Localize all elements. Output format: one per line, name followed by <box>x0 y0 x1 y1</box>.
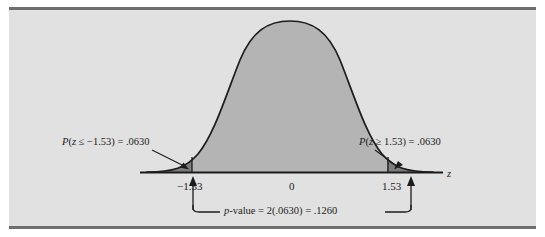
normal-curve-plot <box>0 0 545 237</box>
right-tail-annotation: P(z ≥ 1.53) = .0630 <box>359 137 441 148</box>
right-annotation-relation: ≥ 1.53 <box>373 136 402 147</box>
z-axis-label: z <box>447 169 451 180</box>
pvalue-bracket-left-elbow <box>193 205 220 212</box>
tick-label-zero: 0 <box>289 181 295 192</box>
pvalue-bracket-right-elbow <box>385 205 411 212</box>
distribution-body-fill <box>147 21 433 172</box>
left-annotation-leader <box>152 150 186 167</box>
right-annotation-equals: = .0630 <box>406 136 441 147</box>
tick-label-negative: −1.53 <box>177 181 202 192</box>
pvalue-bracket-right-arrowhead <box>407 176 415 186</box>
tick-label-positive: 1.53 <box>382 181 401 192</box>
p-value-annotation: p-value = 2(.0630) = .1260 <box>224 206 337 217</box>
left-tail-annotation: P(z ≤ −1.53) = .0630 <box>62 137 150 148</box>
p-value-rest: -value = 2(.0630) = .1260 <box>229 205 337 216</box>
left-annotation-relation: ≤ −1.53 <box>76 136 111 147</box>
left-annotation-equals: = .0630 <box>115 136 150 147</box>
figure-root: P(z ≤ −1.53) = .0630 P(z ≥ 1.53) = .0630… <box>0 0 545 237</box>
